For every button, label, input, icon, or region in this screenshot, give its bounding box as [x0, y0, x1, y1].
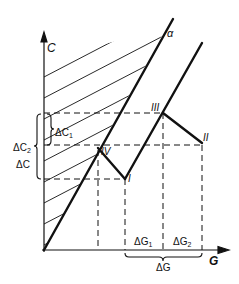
brace-dc2-dc: [34, 114, 41, 179]
point-I-label: I: [128, 173, 131, 184]
dc2-label: ΔC2: [13, 142, 31, 154]
x-axis-arrow-icon: [218, 247, 229, 254]
dg2-label: ΔG2: [173, 236, 191, 248]
brace-dg: [125, 253, 202, 261]
brace-dc1: [47, 114, 54, 145]
point-III-label: III: [151, 102, 160, 113]
diagram-canvas: C G α I II III IV ΔC1 ΔC2 ΔC ΔG1 ΔG2 ΔG: [0, 0, 239, 284]
point-IV-label: IV: [101, 146, 112, 157]
line-alpha-label: α: [167, 27, 174, 39]
dg1-label: ΔG1: [134, 236, 152, 248]
y-axis-label: C: [47, 41, 56, 55]
dc1-label: ΔC1: [55, 127, 73, 139]
x-axis-label: G: [209, 254, 218, 268]
segment-III-II: [163, 113, 202, 143]
dc-label: ΔC: [16, 159, 30, 170]
point-II-label: II: [203, 132, 209, 143]
dg-label: ΔG: [156, 262, 171, 273]
